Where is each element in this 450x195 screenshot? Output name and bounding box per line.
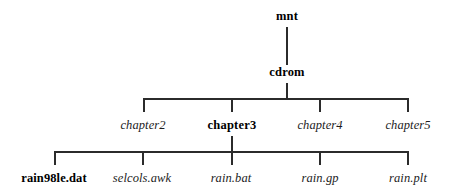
connector-bus-to-rain-gp (319, 151, 321, 165)
node-rain98le-dat: rain98le.dat (21, 172, 86, 185)
connector-chapter3-to-file-bus (231, 136, 233, 152)
node-rain-plt: rain.plt (389, 172, 427, 185)
connector-bus-to-rain-plt (407, 151, 409, 165)
node-selcols-awk: selcols.awk (113, 172, 171, 185)
connector-bus-to-chapter2 (143, 98, 145, 112)
node-mnt: mnt (276, 10, 298, 23)
connector-cdrom-to-chapter-bus (286, 83, 288, 99)
connector-bus-to-rain-bat (231, 151, 233, 165)
node-chapter5: chapter5 (385, 119, 430, 132)
connector-bus-to-selcols-awk (142, 151, 144, 165)
directory-tree-diagram: mnt cdrom chapter2 chapter3 chapter4 cha… (0, 0, 450, 195)
node-rain-bat: rain.bat (211, 172, 252, 185)
connector-bus-to-chapter4 (319, 98, 321, 112)
connector-mnt-to-cdrom (286, 27, 288, 65)
connector-bus-to-rain98le-dat (54, 151, 56, 165)
connector-bus-to-chapter5 (407, 98, 409, 112)
node-cdrom: cdrom (269, 66, 305, 79)
node-chapter2: chapter2 (120, 119, 165, 132)
node-chapter3: chapter3 (208, 119, 257, 132)
node-rain-gp: rain.gp (301, 172, 338, 185)
connector-bus-to-chapter3 (231, 98, 233, 112)
connector-chapter-bus (143, 98, 409, 100)
node-chapter4: chapter4 (297, 119, 342, 132)
